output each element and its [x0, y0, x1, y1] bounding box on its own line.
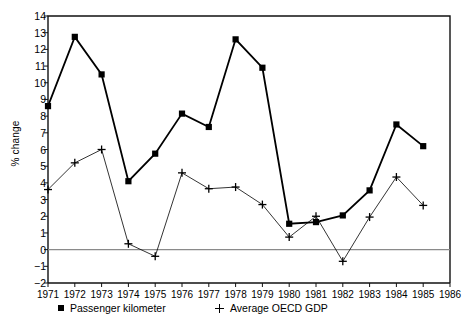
data-point-marker	[286, 221, 292, 227]
data-point-marker	[179, 111, 185, 117]
chart-legend: Passenger kilometer Average OECD GDP	[0, 300, 471, 320]
data-point-marker	[367, 187, 373, 193]
data-point-marker	[99, 71, 105, 77]
data-point-marker	[340, 212, 346, 218]
data-point-marker	[72, 34, 78, 40]
data-point-marker	[259, 65, 265, 71]
data-point-marker	[206, 124, 212, 130]
data-point-marker	[233, 36, 239, 42]
series-passenger-kilometer	[45, 34, 426, 227]
legend-item-passenger-kilometer: Passenger kilometer	[58, 302, 166, 314]
legend-label-average-oecd-gdp: Average OECD GDP	[230, 302, 328, 314]
legend-item-average-oecd-gdp: Average OECD GDP	[215, 302, 328, 314]
chart-figure: % change 14131211109876543210−1−2 197119…	[0, 0, 471, 330]
data-point-marker	[45, 103, 51, 109]
data-point-marker	[393, 121, 399, 127]
data-point-marker	[152, 151, 158, 157]
plus-marker-icon	[215, 304, 224, 313]
data-point-marker	[125, 178, 131, 184]
plot-area	[0, 0, 471, 330]
data-point-marker	[420, 143, 426, 149]
series-average-oecd-gdp	[44, 146, 427, 266]
square-marker-icon	[58, 305, 64, 311]
legend-label-passenger-kilometer: Passenger kilometer	[70, 302, 166, 314]
